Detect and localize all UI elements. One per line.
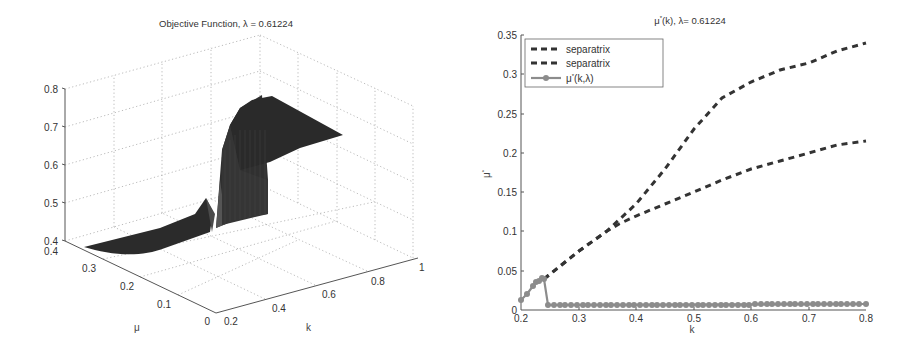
z-tick-labels: 0.8 0.7 0.6 0.5 0.4 [44, 84, 58, 247]
y-axis-label: μ* [481, 169, 492, 178]
svg-text:0.3: 0.3 [503, 69, 517, 80]
svg-text:0.35: 0.35 [498, 30, 518, 41]
svg-text:0.6: 0.6 [322, 289, 336, 300]
x-axis-label: k [690, 324, 696, 335]
k-axis-label: k [306, 322, 312, 333]
svg-text:0.4: 0.4 [629, 313, 643, 324]
svg-text:0.1: 0.1 [157, 299, 171, 310]
legend-label-separatrix-2: separatrix [566, 58, 610, 69]
mu-axis-label: μ [134, 322, 140, 333]
mu-star-series [518, 275, 869, 308]
svg-text:1: 1 [419, 262, 425, 273]
svg-text:0.8: 0.8 [44, 84, 58, 95]
surface-plot: Objective Function, λ = 0.61224 [44, 18, 425, 333]
legend-label-separatrix-1: separatrix [566, 44, 610, 55]
svg-text:0.3: 0.3 [82, 263, 96, 274]
svg-text:0.3: 0.3 [572, 313, 586, 324]
mu-tick-labels: 0.4 0.3 0.2 0.1 0 [44, 246, 210, 327]
figure: Objective Function, λ = 0.61224 [0, 0, 906, 364]
svg-text:0.4: 0.4 [272, 303, 286, 314]
svg-text:0.7: 0.7 [802, 313, 816, 324]
svg-text:0.2: 0.2 [514, 313, 528, 324]
svg-text:0.2: 0.2 [503, 148, 517, 159]
svg-text:0.5: 0.5 [687, 313, 701, 324]
svg-text:0.8: 0.8 [371, 276, 385, 287]
legend: separatrix separatrix μ*(k,λ) [525, 39, 663, 87]
line-plot: μ*(k), λ= 0.61224 0.35 0.3 0.25 0.2 0.15… [481, 15, 873, 335]
surface-plot-title: Objective Function, λ = 0.61224 [159, 18, 293, 29]
svg-text:0.15: 0.15 [498, 187, 518, 198]
svg-text:0.5: 0.5 [44, 198, 58, 209]
legend-label-mu-star: μ*(k,λ) [566, 73, 594, 84]
svg-text:0.6: 0.6 [44, 160, 58, 171]
svg-text:0.1: 0.1 [503, 226, 517, 237]
svg-text:0.05: 0.05 [498, 266, 518, 277]
svg-text:0.7: 0.7 [44, 122, 58, 133]
line-plot-title: μ*(k), λ= 0.61224 [654, 15, 725, 26]
y-tick-labels: 0.35 0.3 0.25 0.2 0.15 0.1 0.05 0 [498, 30, 518, 316]
svg-text:0.25: 0.25 [498, 109, 518, 120]
svg-text:0.2: 0.2 [224, 316, 238, 327]
svg-text:0.6: 0.6 [744, 313, 758, 324]
svg-text:0.8: 0.8 [859, 313, 873, 324]
svg-text:0.4: 0.4 [44, 246, 58, 257]
svg-text:0.2: 0.2 [120, 281, 134, 292]
svg-text:0: 0 [204, 316, 210, 327]
separatrix-lower-line [544, 141, 866, 279]
x-tick-labels: 0.2 0.3 0.4 0.5 0.6 0.7 0.8 [514, 313, 873, 324]
k-tick-labels: 0.2 0.4 0.6 0.8 1 [224, 262, 425, 327]
